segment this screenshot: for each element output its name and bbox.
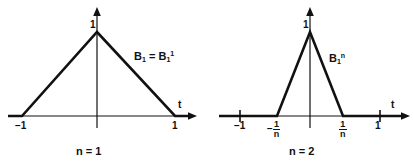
plot-right-graphics xyxy=(207,0,414,167)
plot-panel-n-equals-2: 1 t −1 1 −1n 1n B1n n = 2 xyxy=(207,0,414,167)
x-axis-arrowhead xyxy=(401,112,410,120)
x-axis-name-t: t xyxy=(391,100,394,110)
caption-n-equals-1: n = 1 xyxy=(76,146,101,157)
fraction-denominator: n xyxy=(339,129,347,139)
figure-b-spline-basis-functions: 1 t −1 1 B1 = B11 n = 1 1 t −1 1 xyxy=(0,0,414,167)
fraction-denominator: n xyxy=(273,129,281,139)
curve-label-b1-n: B1n xyxy=(329,52,345,65)
x-tick-label-minus-one-over-n: −1n xyxy=(267,120,280,139)
x-tick-label-minus-1: −1 xyxy=(15,121,26,131)
fraction-numerator: 1 xyxy=(339,120,347,129)
x-axis-arrowhead xyxy=(188,112,197,120)
plot-left-graphics xyxy=(0,0,207,167)
curve-label-superscript-2: 1 xyxy=(170,50,174,57)
fraction-one-over-n: 1n xyxy=(339,120,347,139)
x-tick-label-one-over-n: 1n xyxy=(339,120,347,139)
fraction-numerator: 1 xyxy=(273,120,281,129)
y-axis-arrowhead xyxy=(306,7,314,16)
caption-n-equals-2: n = 2 xyxy=(289,146,314,157)
x-tick-label-minus-1: −1 xyxy=(234,121,245,131)
curve-label-b1-equals-b1-1: B1 = B11 xyxy=(134,50,174,63)
y-tick-label-1: 1 xyxy=(303,20,309,30)
curve-b1-hat-function xyxy=(8,32,188,116)
x-tick-label-1: 1 xyxy=(375,121,381,131)
x-tick-label-1: 1 xyxy=(172,121,178,131)
plot-panel-n-equals-1: 1 t −1 1 B1 = B11 n = 1 xyxy=(0,0,207,167)
curve-label-base-1: B xyxy=(134,50,142,62)
curve-label-superscript: n xyxy=(341,52,345,59)
curve-label-subscript-1: 1 xyxy=(142,56,146,63)
curve-label-equals-sign: = xyxy=(149,50,155,62)
curve-label-base: B xyxy=(329,52,337,64)
y-axis-arrowhead xyxy=(93,7,101,16)
x-axis-name-t: t xyxy=(178,100,181,110)
fraction-one-over-n: 1n xyxy=(273,120,281,139)
y-tick-label-1: 1 xyxy=(90,20,96,30)
